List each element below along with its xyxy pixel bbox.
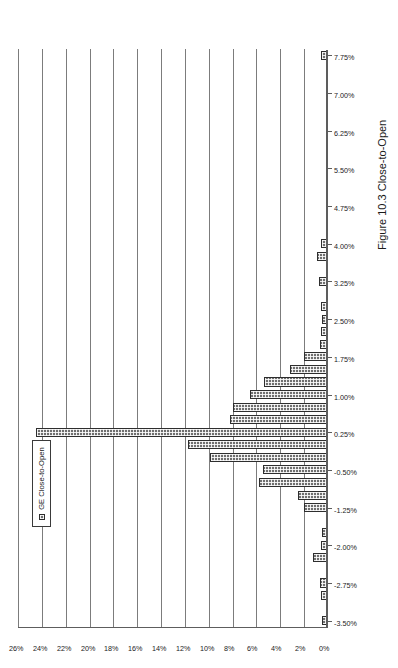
category-tick-label: 0.25% [334,430,354,439]
bar [290,365,327,374]
bar [263,465,327,474]
value-tick-label: 16% [128,644,142,653]
category-tick-label: 4.75% [334,204,354,213]
chart-legend: GE Close-to-Open [32,440,51,526]
category-tick-mark [328,470,332,471]
value-tick-label: 2% [295,644,305,653]
value-tick-label: 10% [200,644,214,653]
category-tick-mark [328,244,332,245]
bar [36,428,327,437]
category-tick-mark [328,357,332,358]
category-tick-label: 2.50% [334,317,354,326]
category-tick-mark [328,545,332,546]
category-tick-mark [328,508,332,509]
category-tick-label: -2.75% [334,581,357,590]
bar [233,403,327,412]
value-tick-label: 4% [271,644,281,653]
category-tick-mark [328,93,332,94]
category-tick-mark [328,395,332,396]
value-tick-label: 12% [176,644,190,653]
category-tick-mark [328,621,332,622]
category-tick-mark [328,131,332,132]
category-tick-mark [328,206,332,207]
category-tick-label: 3.25% [334,279,354,288]
value-axis-baseline [326,50,327,627]
bar-series-ge-close-to-open [18,50,327,627]
chart-figure: -3.50%-2.75%-2.00%-1.25%-0.50%0.25%1.00%… [0,0,398,668]
value-tick-label: 14% [152,644,166,653]
bar [298,491,327,500]
category-tick-mark [328,168,332,169]
figure-page: -3.50%-2.75%-2.00%-1.25%-0.50%0.25%1.00%… [0,0,398,668]
bar [313,553,327,562]
category-tick-mark [328,281,332,282]
bar [304,352,327,361]
value-tick-label: 6% [247,644,257,653]
bar [230,415,327,424]
value-tick-label: 26% [9,644,23,653]
legend-label: GE Close-to-Open [37,447,46,509]
category-tick-mark [328,432,332,433]
bar [304,503,327,512]
bar [259,478,327,487]
legend-swatch-icon [39,514,45,520]
value-tick-label: 24% [33,644,47,653]
value-tick-label: 22% [57,644,71,653]
bar [210,453,327,462]
bar [250,390,328,399]
value-tick-label: 0% [319,644,329,653]
category-tick-label: -0.50% [334,468,357,477]
value-tick-label: 8% [224,644,234,653]
rotated-figure-canvas: -3.50%-2.75%-2.00%-1.25%-0.50%0.25%1.00%… [0,0,398,668]
bar [188,440,328,449]
value-tick-label: 18% [104,644,118,653]
category-tick-label: 1.75% [334,355,354,364]
category-tick-mark [328,55,332,56]
figure-caption: Figure 10.3 Close-to-Open [376,120,388,250]
plot-area [18,50,328,628]
category-tick-mark [328,319,332,320]
category-tick-mark [328,583,332,584]
category-tick-label: 7.00% [334,91,354,100]
category-tick-label: 4.00% [334,242,354,251]
category-tick-label: -3.50% [334,619,357,628]
bar [264,377,327,386]
category-tick-label: 6.25% [334,129,354,138]
category-tick-label: 5.50% [334,166,354,175]
category-tick-label: 7.75% [334,53,354,62]
category-tick-label: -1.25% [334,506,357,515]
category-tick-label: 1.00% [334,393,354,402]
category-tick-label: -2.00% [334,543,357,552]
value-tick-label: 20% [81,644,95,653]
